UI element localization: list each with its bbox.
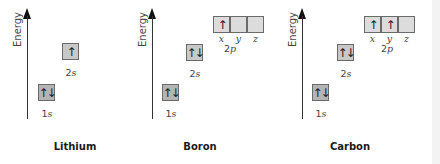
energy-axis xyxy=(302,16,303,119)
element-label-carbon: Carbon xyxy=(310,141,390,152)
orbital-2py-box: ↑ xyxy=(381,16,398,33)
orbital-2px-box: ↑ xyxy=(364,16,381,33)
suborbital-z-label: z xyxy=(398,33,415,44)
energy-axis-label: Energy xyxy=(287,12,298,47)
carbon-diagram: Energy ↑ ↑ x y z 2p ↑↓ 2s ↑↓ 1s Carbon xyxy=(0,0,432,164)
orbital-2p-label: 2p xyxy=(377,43,397,54)
page-edge-strip xyxy=(432,0,440,164)
orbital-1s-box: ↑↓ xyxy=(312,84,329,101)
orbital-2s-label: 2s xyxy=(336,68,356,79)
orbital-2s-box: ↑↓ xyxy=(337,44,354,61)
orbital-2pz-box xyxy=(398,16,415,33)
orbital-1s-label: 1s xyxy=(311,108,331,119)
